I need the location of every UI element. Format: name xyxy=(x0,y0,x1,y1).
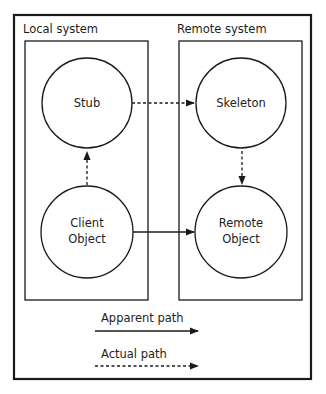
legend-apparent-label: Apparent path xyxy=(101,311,184,325)
node-skeleton: Skeleton xyxy=(196,58,286,148)
legend: Apparent path Actual path xyxy=(95,311,198,366)
remote-object-label-line1: Remote xyxy=(219,216,263,230)
client-object-label-line1: Client xyxy=(70,216,104,230)
remote-system-label: Remote system xyxy=(177,22,267,36)
node-stub: Stub xyxy=(42,58,132,148)
rmi-diagram: Local system Remote system Stub Client O… xyxy=(0,0,326,394)
client-object-label-line2: Object xyxy=(68,232,106,246)
node-remote-object: Remote Object xyxy=(195,186,287,278)
legend-actual-label: Actual path xyxy=(101,347,167,361)
remote-object-label-line2: Object xyxy=(222,232,260,246)
node-client-object: Client Object xyxy=(41,186,133,278)
skeleton-label: Skeleton xyxy=(216,96,266,110)
local-system-label: Local system xyxy=(23,22,98,36)
stub-label: Stub xyxy=(74,96,100,110)
